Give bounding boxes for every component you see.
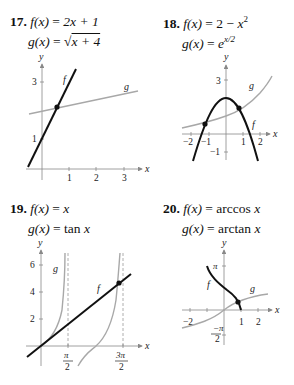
svg-text:1: 1 (241, 137, 246, 147)
svg-text:g: g (124, 81, 129, 92)
svg-text:y: y (38, 51, 44, 62)
svg-text:g: g (53, 263, 58, 274)
svg-text:−π: −π (213, 323, 224, 333)
svg-text:π: π (213, 261, 218, 271)
graph-20: y x −2 1 2 π −π 2 f g (182, 237, 280, 345)
svg-text:3π: 3π (115, 350, 126, 360)
svg-text:f: f (207, 279, 211, 290)
svg-text:x: x (274, 304, 280, 315)
svg-text:2: 2 (30, 314, 35, 324)
svg-text:3: 3 (216, 76, 221, 86)
svg-text:2: 2 (215, 334, 220, 344)
svg-text:x: x (144, 340, 150, 351)
svg-text:2: 2 (119, 362, 124, 372)
svg-text:y: y (223, 51, 229, 62)
svg-text:3: 3 (32, 77, 37, 87)
svg-text:2: 2 (256, 317, 261, 327)
graph-17: y x 1 2 3 1 3 f g (26, 51, 150, 183)
graph-18: y x −2 −1 1 2 3 −1 g f (182, 51, 278, 161)
graphs-canvas: y x 1 2 3 1 3 f g y x −2 −1 1 2 3 −1 g f… (0, 0, 294, 385)
svg-text:2: 2 (258, 137, 263, 147)
svg-text:2: 2 (94, 173, 99, 183)
svg-text:x: x (144, 163, 150, 174)
svg-text:1: 1 (239, 317, 244, 327)
svg-text:g: g (249, 80, 254, 91)
svg-text:4: 4 (30, 287, 35, 297)
svg-text:−2: −2 (183, 137, 193, 147)
svg-text:3: 3 (122, 173, 127, 183)
svg-text:y: y (37, 237, 43, 248)
svg-text:f: f (97, 283, 101, 294)
svg-text:f: f (252, 119, 256, 130)
svg-text:g: g (250, 283, 255, 294)
graph-19: y x 6 4 2 π 2 3π 2 g f (26, 237, 150, 372)
svg-text:f: f (63, 74, 67, 85)
svg-text:6: 6 (30, 260, 35, 270)
svg-text:−1: −1 (210, 147, 220, 157)
svg-text:x: x (272, 128, 278, 139)
svg-text:y: y (221, 237, 227, 248)
svg-text:−1: −1 (201, 137, 211, 147)
svg-text:2: 2 (65, 362, 70, 372)
svg-text:1: 1 (32, 134, 37, 144)
svg-text:1: 1 (67, 173, 72, 183)
svg-text:π: π (64, 350, 69, 360)
